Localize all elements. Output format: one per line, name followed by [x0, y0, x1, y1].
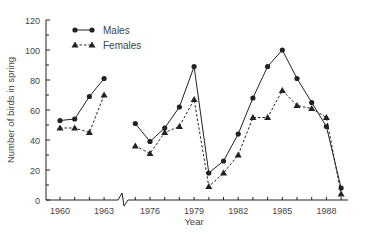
males-marker [72, 116, 77, 121]
x-tick-label: 1976 [140, 206, 160, 216]
males-marker [250, 95, 255, 100]
x-tick-label: 1982 [228, 206, 248, 216]
females-marker [338, 190, 345, 196]
males-marker [280, 47, 285, 52]
females-line [135, 91, 341, 195]
males-marker [192, 64, 197, 69]
females-marker [323, 114, 330, 120]
males-marker [309, 100, 314, 105]
males-marker [236, 131, 241, 136]
chart: 020406080100120Number of birds in spring… [0, 0, 367, 236]
legend-label-males: Males [103, 25, 130, 36]
females-marker [101, 91, 108, 97]
y-tick-label: 0 [35, 196, 40, 206]
females-marker [191, 96, 198, 102]
x-tick-label: 1985 [272, 206, 292, 216]
y-tick-label: 60 [30, 106, 40, 116]
females-marker [294, 102, 301, 108]
y-tick-label: 40 [30, 136, 40, 146]
y-tick-label: 80 [30, 76, 40, 86]
females-marker [71, 124, 78, 130]
males-marker [87, 94, 92, 99]
males-marker [221, 158, 226, 163]
males-line [135, 50, 341, 188]
legend-marker-males [89, 27, 94, 32]
males-marker [57, 118, 62, 123]
x-axis-title: Year [184, 216, 203, 227]
males-marker [133, 121, 138, 126]
males-marker [177, 104, 182, 109]
males-marker [102, 76, 107, 81]
females-marker [132, 142, 139, 148]
legend-label-females: Females [103, 40, 141, 51]
legend-marker-males [72, 27, 77, 32]
y-axis-title: Number of birds in spring [5, 57, 16, 163]
y-tick-label: 100 [25, 46, 40, 56]
x-tick-label: 1960 [50, 206, 70, 216]
axis-break-mark [118, 193, 128, 206]
males-line [60, 79, 104, 121]
males-marker [265, 64, 270, 69]
females-marker [176, 123, 183, 129]
x-tick-label: 1963 [94, 206, 114, 216]
females-line [60, 95, 104, 133]
males-marker [294, 76, 299, 81]
x-tick-label: 1988 [316, 206, 336, 216]
y-tick-label: 20 [30, 166, 40, 176]
females-marker [220, 169, 227, 175]
y-tick-label: 120 [25, 16, 40, 26]
females-marker [235, 151, 242, 157]
females-marker [279, 87, 286, 93]
x-tick-label: 1979 [184, 206, 204, 216]
males-marker [147, 139, 152, 144]
females-marker [264, 114, 271, 120]
